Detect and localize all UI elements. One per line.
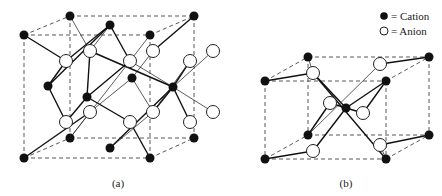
figure-b: (b) [261,53,434,191]
cation-atom [106,144,115,153]
cation-atom [382,77,391,86]
cation-atom [382,155,391,164]
cation-atom [190,12,199,21]
anion-atom [307,145,320,158]
cation-atom [83,93,92,102]
cation-atom [342,104,351,113]
legend-cation-label: = Cation [391,10,430,22]
cation-atom [128,74,137,83]
cation-atom [190,134,199,143]
cation-atom [304,53,313,62]
cation-atom [20,154,29,163]
cation-legend-icon [380,12,388,20]
anion-atom [207,106,220,119]
caption-a: (a) [112,177,125,190]
cation-atom [261,155,270,164]
anion-atom [124,55,137,68]
anion-atom [184,116,197,129]
cation-atom [425,131,434,140]
cations-a [20,12,199,163]
anion-atom [147,106,160,119]
cation-atom [146,31,155,40]
crystal-structures-figure: (a) [0,0,442,196]
anion-atom [324,97,337,110]
anion-atom [357,107,370,120]
anion-atom [374,58,387,71]
anion-legend-icon [380,27,388,35]
anion-atom [207,45,220,58]
cation-atom [20,31,29,40]
cation-atom [66,12,75,21]
anion-atom [84,106,97,119]
anion-atom [307,67,320,80]
cation-atom [146,154,155,163]
cation-atom [106,21,115,30]
cation-atom [169,83,178,92]
legend: = Cation = Anion [380,10,430,37]
anion-atom [60,116,73,129]
legend-anion-label: = Anion [391,25,427,37]
cation-atom [66,134,75,143]
figure-a: (a) [20,12,220,191]
anion-atom [84,45,97,58]
anion-atom [60,55,73,68]
anion-atom [147,45,160,58]
anion-atom [374,139,387,152]
cation-atom [44,82,53,91]
cation-atom [261,77,270,86]
anion-atom [184,55,197,68]
cation-atom [304,131,313,140]
caption-b: (b) [340,177,353,190]
cation-atom [425,53,434,62]
anion-atom [124,116,137,129]
